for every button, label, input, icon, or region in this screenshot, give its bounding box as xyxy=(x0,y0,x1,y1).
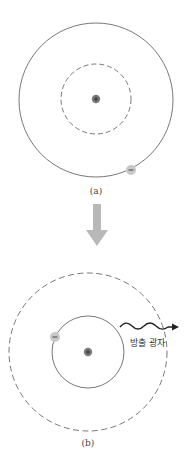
bohr-emission-diagram xyxy=(0,0,195,458)
photon-wave-arrow-icon xyxy=(120,323,179,331)
transition-arrow-icon xyxy=(86,204,108,246)
electron-icon xyxy=(126,165,136,175)
nucleus-icon xyxy=(84,348,92,356)
panel-b-label: (b) xyxy=(78,438,98,448)
nucleus-icon xyxy=(92,95,100,103)
panel-b xyxy=(9,273,179,431)
photon-label: 방출 광자 xyxy=(130,336,165,349)
panel-a xyxy=(19,23,173,177)
electron-icon xyxy=(50,332,60,342)
panel-a-label: (a) xyxy=(86,186,106,196)
